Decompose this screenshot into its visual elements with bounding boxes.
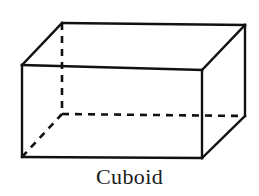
hidden-bottom-left-diagonal-edge [22, 114, 62, 157]
cuboid-figure-page: Cuboid [0, 0, 259, 196]
top-face-right-diagonal-edge [202, 25, 245, 70]
figure-caption: Cuboid [0, 163, 259, 190]
visible-edges-group [22, 23, 245, 158]
top-face-left-diagonal-edge [22, 23, 62, 65]
right-face-bottom-diagonal-edge [202, 116, 245, 158]
front-face-bottom-edge [22, 157, 202, 158]
hidden-edges-group [22, 23, 245, 157]
top-face-back-edge [62, 23, 245, 25]
hidden-bottom-back-edge [62, 114, 245, 116]
front-face-top-edge [22, 65, 202, 70]
